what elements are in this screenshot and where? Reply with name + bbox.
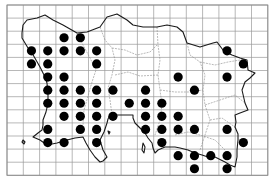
record-dot (59, 72, 68, 81)
record-dot (190, 164, 199, 173)
record-dot (43, 46, 52, 55)
record-dot (174, 112, 183, 121)
record-dot (76, 99, 85, 108)
record-dot (206, 151, 215, 160)
record-dot (92, 125, 101, 134)
distribution-map (0, 0, 271, 181)
record-dot (76, 86, 85, 95)
record-dot (59, 99, 68, 108)
record-dot (222, 72, 231, 81)
record-dot (76, 46, 85, 55)
record-dot (43, 59, 52, 68)
record-dot (222, 125, 231, 134)
record-dot (43, 138, 52, 147)
record-dot (92, 99, 101, 108)
record-dot (76, 112, 85, 121)
record-dot (157, 112, 166, 121)
record-dot (174, 125, 183, 134)
record-dot (76, 33, 85, 42)
record-dot (43, 86, 52, 95)
record-dot (59, 33, 68, 42)
record-dot (92, 138, 101, 147)
record-dot (222, 46, 231, 55)
record-dot (141, 125, 150, 134)
coastline (22, 14, 255, 167)
record-dot (92, 46, 101, 55)
record-dot (27, 59, 36, 68)
record-dot (157, 99, 166, 108)
islet-mid (108, 131, 110, 134)
record-dot (27, 46, 36, 55)
record-dot (190, 86, 199, 95)
record-dot (43, 125, 52, 134)
record-dot (190, 151, 199, 160)
record-dot (141, 112, 150, 121)
record-dot (59, 46, 68, 55)
record-dot (92, 86, 101, 95)
record-dot (125, 99, 134, 108)
record-dot (59, 138, 68, 147)
record-dot (174, 72, 183, 81)
record-dot (222, 151, 231, 160)
record-dot (190, 125, 199, 134)
record-dot (157, 125, 166, 134)
record-dot (141, 86, 150, 95)
islet-south (142, 143, 145, 153)
record-dot (59, 86, 68, 95)
record-dot (59, 112, 68, 121)
record-dot (239, 59, 248, 68)
record-dot (222, 164, 231, 173)
record-dot (157, 138, 166, 147)
record-dot (92, 59, 101, 68)
record-dot (43, 99, 52, 108)
record-dot (108, 112, 117, 121)
record-dot (239, 138, 248, 147)
record-dot (141, 99, 150, 108)
record-dot (174, 151, 183, 160)
record-dot (43, 72, 52, 81)
record-dot (76, 125, 85, 134)
record-dot (92, 112, 101, 121)
record-dot (108, 86, 117, 95)
